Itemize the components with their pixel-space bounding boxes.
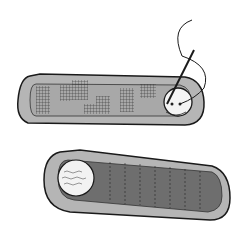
patch-circle: [58, 160, 94, 196]
illustration: [0, 0, 246, 230]
bottom-fabric-piece: [44, 150, 230, 220]
